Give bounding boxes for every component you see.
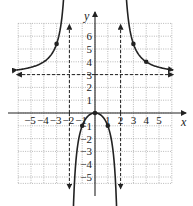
x-tick-label: −5 [24,114,36,126]
x-axis-label: x [180,115,187,129]
data-point [144,60,149,65]
x-tick-label: 5 [156,114,162,126]
x-tick-label: 3 [131,114,137,126]
data-point [131,42,136,47]
x-tick-label: −3 [50,114,62,126]
y-tick-label: −4 [80,158,92,170]
rational-function-graph: −5−4−3−2−112345−5−4−3−2−1123456 x y [0,0,193,206]
x-tick-label: 4 [143,114,149,126]
y-tick-label: 5 [87,43,93,55]
y-tick-label: −2 [80,133,92,145]
data-point [80,124,85,129]
data-point [54,42,59,47]
y-tick-label: −5 [80,171,92,183]
x-tick-label: −4 [37,114,49,126]
left-branch [17,0,66,70]
right-branch [124,0,173,70]
y-tick-label: 1 [87,94,93,106]
y-axis-label: y [83,9,90,23]
data-point [106,124,111,129]
y-tick-label: 4 [87,56,93,68]
y-tick-label: 3 [87,69,93,81]
data-point [93,111,98,116]
tick-labels: −5−4−3−2−112345−5−4−3−2−1123456 [24,30,162,183]
y-tick-label: −3 [80,145,92,157]
y-tick-label: 2 [87,81,93,93]
y-tick-label: 6 [87,30,93,42]
x-tick-label: −2 [63,114,75,126]
x-tick-label: 2 [118,114,124,126]
